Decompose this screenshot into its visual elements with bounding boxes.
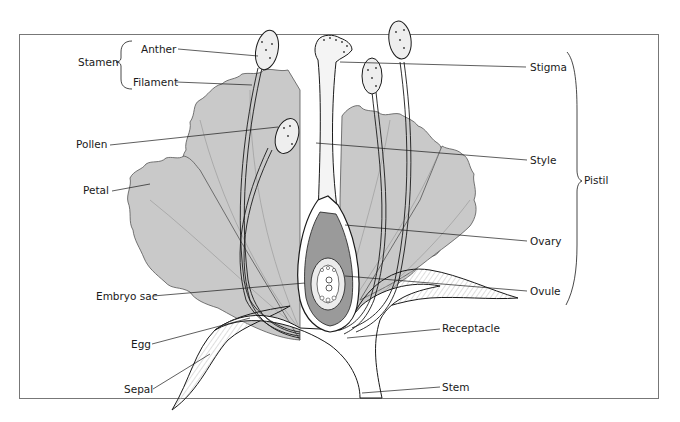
label-style: Style — [530, 154, 556, 166]
pistil-bracket — [566, 52, 582, 305]
egg-cell — [326, 277, 332, 283]
label-filament: Filament — [133, 76, 178, 88]
label-pollen: Pollen — [76, 138, 107, 150]
label-receptacle: Receptacle — [442, 322, 500, 334]
label-pistil: Pistil — [584, 174, 608, 186]
label-stigma: Stigma — [530, 61, 567, 73]
label-sepal: Sepal — [124, 383, 153, 395]
label-ovule: Ovule — [530, 285, 561, 297]
label-embryo-sac: Embryo sac — [96, 290, 158, 302]
label-petal: Petal — [83, 184, 109, 196]
label-stamen: Stamen — [78, 56, 119, 68]
label-stem: Stem — [442, 381, 469, 393]
anther-1 — [252, 28, 282, 72]
anther-3 — [362, 58, 382, 94]
label-egg: Egg — [131, 338, 151, 350]
label-ovary: Ovary — [530, 235, 561, 247]
label-anther: Anther — [141, 43, 176, 55]
